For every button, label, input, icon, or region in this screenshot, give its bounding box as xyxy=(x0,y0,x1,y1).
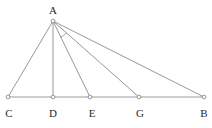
segment-side-AC xyxy=(8,21,53,97)
vertex-label-D: D xyxy=(49,107,57,119)
vertex-label-C: C xyxy=(5,107,12,119)
vertex-marker-B xyxy=(202,95,206,99)
vertex-label-A: A xyxy=(49,4,57,16)
segment-side-AB xyxy=(53,21,204,97)
angle-arc-at-A xyxy=(61,33,67,37)
vertex-label-G: G xyxy=(136,107,144,119)
vertex-marker-D xyxy=(51,95,55,99)
geometry-figure: A C D E G B xyxy=(0,0,212,128)
vertex-marker-E xyxy=(88,95,92,99)
vertex-label-E: E xyxy=(89,107,96,119)
vertex-marker-C xyxy=(6,95,10,99)
vertex-marker-G xyxy=(137,95,141,99)
vertex-label-B: B xyxy=(200,107,207,119)
vertex-marker-A xyxy=(51,19,55,23)
figure-canvas: A C D E G B xyxy=(0,0,212,128)
segment-cevian-AG xyxy=(53,21,139,97)
segment-cevian-AE xyxy=(53,21,90,97)
